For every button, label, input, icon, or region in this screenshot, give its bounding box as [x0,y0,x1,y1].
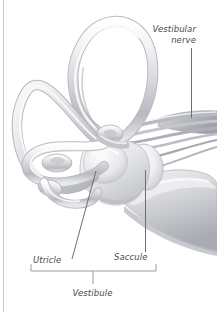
label-saccule: Saccule [114,252,148,263]
label-vestibular-nerve-line2: nerve [171,35,196,45]
label-vestibule: Vestibule [0,288,217,299]
vestibule-bracket [25,262,165,288]
label-utricle: Utricle [33,255,61,266]
anatomy-figure: Vestibularnerve Utricle Saccule Vestibul… [0,0,217,312]
label-vestibular-nerve-line1: Vestibular [152,24,196,34]
saccule-leader [145,170,146,252]
label-vestibular-nerve: Vestibularnerve [152,24,196,45]
vestibular-nerve-leader [191,48,192,118]
utricle-leader [60,165,105,265]
